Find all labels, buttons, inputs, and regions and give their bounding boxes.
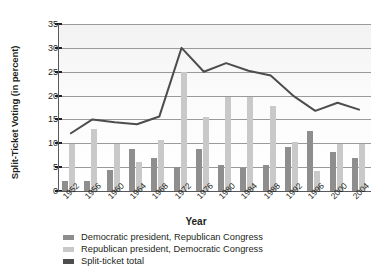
split-ticket-total-line bbox=[59, 24, 371, 191]
legend-label: Split-ticket total bbox=[81, 256, 144, 266]
legend-label: Republican president, Democratic Congres… bbox=[81, 244, 263, 254]
legend-item: Split-ticket total bbox=[63, 255, 383, 267]
line-path bbox=[70, 48, 360, 134]
y-tick-label: 35 bbox=[28, 19, 58, 29]
y-axis-title: Split-Ticket Voting (in percent) bbox=[2, 28, 28, 196]
y-tick-label: 5 bbox=[28, 162, 58, 172]
y-tick-label: 10 bbox=[28, 138, 58, 148]
chart-legend: Democratic president, Republican Congres… bbox=[63, 231, 383, 267]
y-tick-label: 15 bbox=[28, 114, 58, 124]
plot-area: 05101520253035 bbox=[59, 24, 371, 191]
y-axis-title-label: Split-Ticket Voting (in percent) bbox=[10, 45, 21, 179]
x-axis-title: Year bbox=[0, 216, 392, 227]
legend-swatch bbox=[63, 259, 74, 264]
legend-swatch bbox=[63, 247, 74, 252]
y-tick-label: 20 bbox=[28, 91, 58, 101]
y-tick-label: 25 bbox=[28, 67, 58, 77]
x-axis-line bbox=[58, 191, 371, 192]
y-tick-label: 0 bbox=[28, 186, 58, 196]
legend-swatch bbox=[63, 235, 74, 240]
split-ticket-voting-chart: Split-Ticket Voting (in percent) 0510152… bbox=[0, 0, 392, 271]
legend-label: Democratic president, Republican Congres… bbox=[81, 232, 263, 242]
legend-item: Republican president, Democratic Congres… bbox=[63, 243, 383, 255]
y-tick-label: 30 bbox=[28, 43, 58, 53]
legend-item: Democratic president, Republican Congres… bbox=[63, 231, 383, 243]
